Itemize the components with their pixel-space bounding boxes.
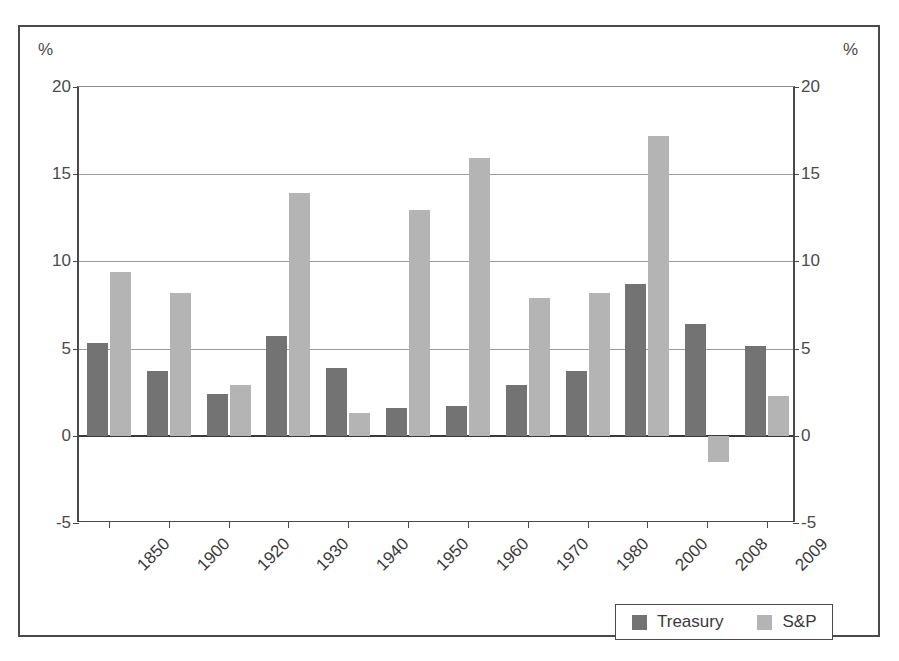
- bar-sandp-1900: [170, 293, 191, 436]
- y-tick-label-right-15: 15: [801, 165, 845, 182]
- legend-label: Treasury: [657, 612, 723, 632]
- x-tick-label-1940: 1940: [373, 535, 412, 574]
- y-tick-mark: [793, 349, 799, 350]
- y-tick-mark: [793, 174, 799, 175]
- bar-sandp-1940: [349, 413, 370, 436]
- bar-sandp-2009: [768, 396, 789, 436]
- y-tick-label-left-10: 10: [27, 252, 71, 269]
- legend-swatch-icon: [632, 615, 647, 630]
- y-tick-mark: [73, 87, 79, 88]
- x-tick-mark: [288, 521, 289, 528]
- x-tick-label-1980: 1980: [613, 535, 652, 574]
- x-tick-mark: [707, 521, 708, 528]
- x-tick-label-1900: 1900: [194, 535, 233, 574]
- y-axis-unit-left: %: [38, 40, 53, 60]
- y-tick-mark: [73, 349, 79, 350]
- y-tick-mark: [793, 261, 799, 262]
- x-tick-mark: [468, 521, 469, 528]
- y-tick-mark: [73, 436, 79, 437]
- y-tick-label-left-20: 20: [27, 78, 71, 95]
- y-tick-label-right-20: 20: [801, 78, 845, 95]
- x-tick-mark: [528, 521, 529, 528]
- gridline: [79, 174, 793, 175]
- x-tick-label-1930: 1930: [313, 535, 352, 574]
- bar-sandp-1920: [230, 385, 251, 436]
- x-tick-label-2000: 2000: [672, 535, 711, 574]
- chart-figure: % % 20151050-5 20151050-5 18501900192019…: [18, 25, 880, 637]
- legend-swatch-icon: [757, 615, 772, 630]
- x-tick-label-1850: 1850: [134, 535, 173, 574]
- bar-treasury-1850: [87, 343, 108, 435]
- bar-treasury-1980: [566, 371, 587, 436]
- x-tick-label-1960: 1960: [493, 535, 532, 574]
- y-tick-mark: [73, 174, 79, 175]
- bar-sandp-2008: [708, 436, 729, 462]
- bar-sandp-1970: [529, 298, 550, 436]
- bar-treasury-1930: [266, 336, 287, 435]
- y-tick-label-right-5: 5: [801, 340, 845, 357]
- bar-treasury-2009: [745, 346, 766, 436]
- x-tick-mark: [229, 521, 230, 528]
- y-tick-mark: [73, 261, 79, 262]
- chart-legend: TreasuryS&P: [615, 604, 833, 640]
- x-tick-mark: [169, 521, 170, 528]
- bar-sandp-1930: [289, 193, 310, 435]
- bar-sandp-1950: [409, 210, 430, 436]
- bar-treasury-1950: [386, 408, 407, 436]
- x-tick-label-1970: 1970: [553, 535, 592, 574]
- y-tick-label-left-15: 15: [27, 165, 71, 182]
- bar-sandp-1850: [110, 272, 131, 436]
- y-tick-label-left-0: 0: [27, 427, 71, 444]
- x-tick-label-2008: 2008: [732, 535, 771, 574]
- x-tick-label-1950: 1950: [433, 535, 472, 574]
- legend-label: S&P: [782, 612, 816, 632]
- x-tick-mark: [408, 521, 409, 528]
- bar-treasury-2008: [685, 324, 706, 436]
- y-tick-mark: [793, 436, 799, 437]
- bar-treasury-1920: [207, 394, 228, 436]
- gridline: [79, 261, 793, 262]
- bar-treasury-1900: [147, 371, 168, 436]
- x-tick-label-2009: 2009: [792, 535, 831, 574]
- x-tick-mark: [647, 521, 648, 528]
- y-tick-label-left-neg5: -5: [27, 514, 71, 531]
- y-tick-label-right-10: 10: [801, 252, 845, 269]
- plot-area: 20151050-5 20151050-5 185019001920193019…: [77, 86, 795, 522]
- y-tick-mark: [793, 523, 799, 524]
- bar-treasury-2000: [625, 284, 646, 436]
- bar-sandp-1980: [589, 293, 610, 436]
- bar-treasury-1940: [326, 368, 347, 436]
- y-tick-label-left-5: 5: [27, 340, 71, 357]
- x-tick-mark: [767, 521, 768, 528]
- y-axis-unit-right: %: [843, 40, 858, 60]
- legend-item-treasury[interactable]: Treasury: [632, 612, 723, 632]
- legend-item-sandp[interactable]: S&P: [757, 612, 816, 632]
- x-tick-mark: [588, 521, 589, 528]
- y-tick-label-right-neg5: -5: [801, 514, 845, 531]
- bar-sandp-1960: [469, 158, 490, 436]
- y-tick-label-right-0: 0: [801, 427, 845, 444]
- bar-treasury-1970: [506, 385, 527, 436]
- bar-sandp-2000: [648, 136, 669, 436]
- bar-treasury-1960: [446, 406, 467, 436]
- x-tick-mark: [109, 521, 110, 528]
- y-tick-mark: [73, 523, 79, 524]
- y-tick-mark: [793, 87, 799, 88]
- x-tick-mark: [348, 521, 349, 528]
- x-tick-label-1920: 1920: [254, 535, 293, 574]
